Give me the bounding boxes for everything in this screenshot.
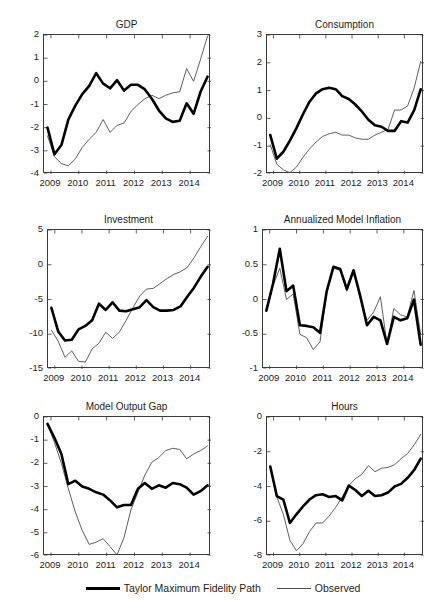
panel-title-hours: Hours — [266, 401, 423, 412]
figure-canvas: Taylor Maximum Fidelity PathObserved GDP… — [0, 0, 446, 610]
ytick-label-hours-4: 0 — [232, 411, 262, 421]
plot-area-hours — [266, 416, 423, 555]
ytick-label-hours-3: -2 — [232, 446, 262, 456]
ytick-label-hours-1: -6 — [232, 515, 262, 525]
xtick-label-hours-5: 2014 — [386, 560, 420, 570]
axis-ticks-hours — [267, 417, 424, 556]
ytick-label-hours-0: -8 — [232, 550, 262, 560]
ytick-label-hours-2: -4 — [232, 481, 262, 491]
series-line-hours-taylor-path — [270, 459, 420, 523]
panel-hours: Hours-8-6-4-20200920102011201220132014 — [0, 0, 446, 610]
series-canvas-hours — [267, 417, 424, 556]
